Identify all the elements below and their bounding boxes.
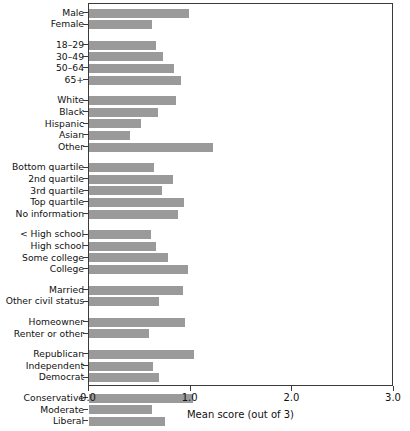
- x-tick: [291, 386, 292, 391]
- y-tick: [83, 146, 88, 147]
- bar: [89, 350, 194, 359]
- category-label-race-2: Hispanic: [0, 119, 84, 128]
- category-label-party-2: Democrat: [0, 372, 84, 381]
- bar: [89, 175, 173, 184]
- category-label-civil-status-1: Other civil status: [0, 296, 84, 305]
- y-tick: [83, 134, 88, 135]
- bar: [89, 198, 184, 207]
- y-tick: [83, 257, 88, 258]
- bar: [89, 96, 176, 105]
- x-tick-label-1: 1.0: [170, 392, 210, 403]
- category-label-income-3: Top quartile: [0, 197, 84, 206]
- y-tick: [83, 377, 88, 378]
- x-tick: [393, 386, 394, 391]
- x-tick-label-0: 0.0: [68, 392, 108, 403]
- y-tick: [83, 44, 88, 45]
- y-tick: [83, 190, 88, 191]
- category-label-education-0: < High school: [0, 229, 84, 238]
- bar: [89, 41, 156, 50]
- bar: [89, 230, 151, 239]
- y-tick: [83, 178, 88, 179]
- y-tick: [83, 420, 88, 421]
- category-label-income-2: 3rd quartile: [0, 186, 84, 195]
- x-tick: [190, 386, 191, 391]
- y-tick: [83, 321, 88, 322]
- category-label-age-1: 30–49: [0, 52, 84, 61]
- bar-chart: MaleFemale18–2930–4950–6465+WhiteBlackHi…: [0, 0, 410, 431]
- bar: [89, 76, 181, 85]
- category-label-housing-1: Renter or other: [0, 329, 84, 338]
- bar: [89, 9, 189, 18]
- y-tick: [83, 201, 88, 202]
- x-tick-label-2: 2.0: [271, 392, 311, 403]
- y-tick: [83, 353, 88, 354]
- y-tick: [83, 24, 88, 25]
- plot-area: [88, 3, 393, 386]
- y-tick: [83, 167, 88, 168]
- y-tick: [83, 301, 88, 302]
- bar: [89, 119, 141, 128]
- y-tick: [83, 111, 88, 112]
- x-axis-title: Mean score (out of 3): [88, 409, 393, 420]
- bar: [89, 108, 158, 117]
- bar: [89, 329, 149, 338]
- category-label-age-3: 65+: [0, 75, 84, 84]
- category-label-income-4: No information: [0, 209, 84, 218]
- bar: [89, 286, 183, 295]
- category-label-race-3: Asian: [0, 130, 84, 139]
- bar: [89, 52, 163, 61]
- y-tick: [83, 67, 88, 68]
- y-tick: [83, 100, 88, 101]
- bar: [89, 318, 185, 327]
- y-tick: [83, 213, 88, 214]
- x-tick: [88, 386, 89, 391]
- bar: [89, 143, 213, 152]
- category-label-race-4: Other: [0, 142, 84, 151]
- category-label-race-1: Black: [0, 107, 84, 116]
- bar: [89, 265, 188, 274]
- y-tick: [83, 333, 88, 334]
- y-tick: [83, 79, 88, 80]
- bar: [89, 253, 168, 262]
- category-label-income-1: 2nd quartile: [0, 174, 84, 183]
- category-label-civil-status-0: Married: [0, 285, 84, 294]
- y-tick: [83, 12, 88, 13]
- y-tick: [83, 365, 88, 366]
- x-tick-label-3: 3.0: [373, 392, 410, 403]
- category-label-education-2: Some college: [0, 253, 84, 262]
- category-label-age-0: 18–29: [0, 40, 84, 49]
- category-axis-labels: MaleFemale18–2930–4950–6465+WhiteBlackHi…: [0, 3, 84, 386]
- category-label-gender-1: Female: [0, 19, 84, 28]
- bar: [89, 163, 154, 172]
- y-tick: [83, 289, 88, 290]
- y-tick: [83, 245, 88, 246]
- bar: [89, 297, 159, 306]
- y-tick: [83, 56, 88, 57]
- bar: [89, 242, 156, 251]
- category-label-age-2: 50–64: [0, 63, 84, 72]
- y-tick: [83, 123, 88, 124]
- category-label-gender-0: Male: [0, 8, 84, 17]
- bar: [89, 210, 178, 219]
- category-label-housing-0: Homeowner: [0, 317, 84, 326]
- category-label-education-3: College: [0, 264, 84, 273]
- bar: [89, 131, 130, 140]
- bar: [89, 64, 174, 73]
- y-tick: [83, 234, 88, 235]
- category-label-ideology-1: Moderate: [0, 405, 84, 414]
- bar: [89, 186, 162, 195]
- category-label-income-0: Bottom quartile: [0, 162, 84, 171]
- bar: [89, 20, 152, 29]
- category-label-race-0: White: [0, 95, 84, 104]
- bar: [89, 373, 159, 382]
- bar: [89, 362, 153, 371]
- category-label-ideology-2: Liberal: [0, 416, 84, 425]
- category-label-party-0: Republican: [0, 349, 84, 358]
- category-label-party-1: Independent: [0, 361, 84, 370]
- category-label-education-1: High school: [0, 241, 84, 250]
- y-tick: [83, 268, 88, 269]
